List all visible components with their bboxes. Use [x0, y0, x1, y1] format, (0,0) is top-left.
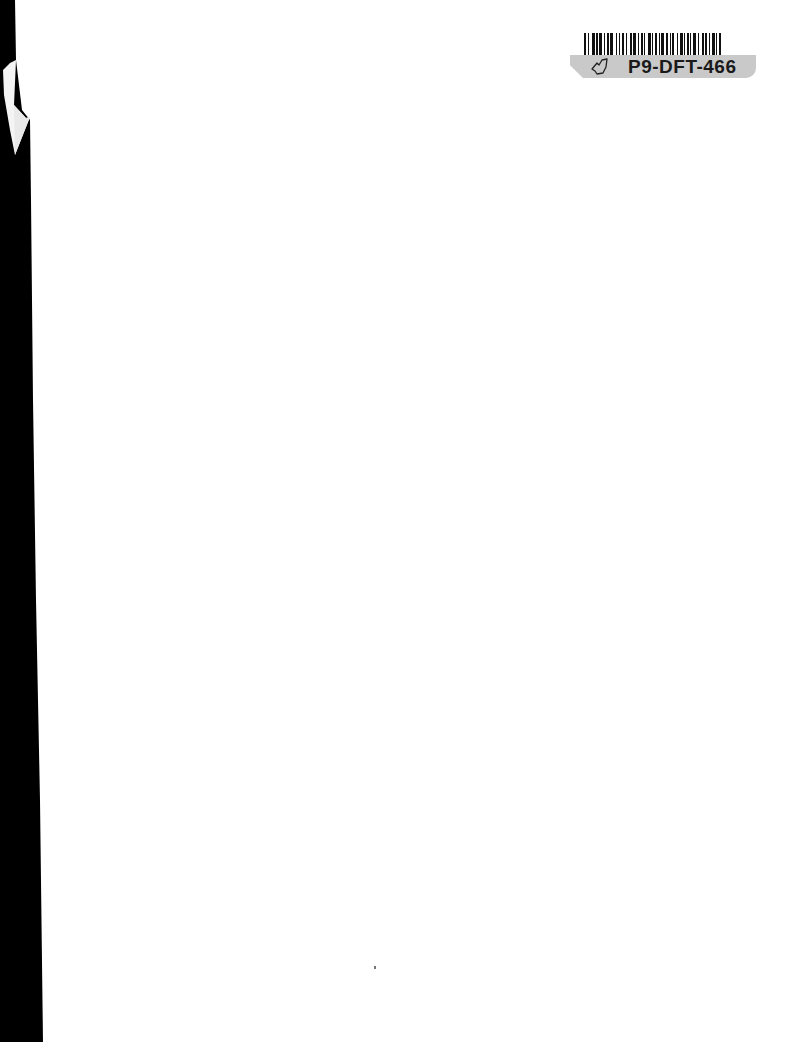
barcode-number: P9-DFT-466 [628, 55, 736, 79]
scan-speck [374, 966, 376, 969]
leaf-icon [590, 58, 610, 76]
scanned-page: P9-DFT-466 [0, 0, 802, 1042]
barcode [584, 33, 740, 55]
barcode-label: P9-DFT-466 [568, 33, 758, 81]
scan-border-edge [0, 0, 802, 1042]
